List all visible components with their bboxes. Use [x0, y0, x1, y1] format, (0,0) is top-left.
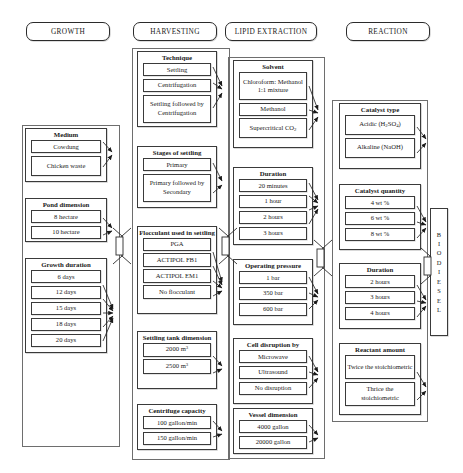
- diagram-canvas: GROWTH HARVESTING LIPID EXTRACTION REACT…: [0, 0, 463, 473]
- group-catalyst-quantity: Catalyst quantity 4 wt % 6 wt % 8 wt %: [339, 184, 421, 250]
- group-technique-options: Settling Centrifugation Settling followe…: [138, 63, 216, 126]
- group-growth-duration-title: Growth duration: [26, 259, 106, 270]
- option-12-days[interactable]: 12 days: [31, 286, 101, 299]
- biodiesel-letter-e1: E: [437, 277, 441, 286]
- option-10-hectare[interactable]: 10 hectare: [31, 226, 101, 239]
- group-medium-options: Cowdung Chicken waste: [26, 140, 106, 179]
- option-150-gallon-min[interactable]: 150 gallon/min: [143, 432, 211, 445]
- group-pond-dimension-title: Pond dimension: [26, 199, 106, 210]
- option-primary-followed-by-secondary-label: Primary followed by Secondary: [145, 179, 209, 196]
- biodiesel-output-label: B I O D I E S E L: [430, 208, 448, 336]
- group-operating-pressure-title: Operating pressure: [234, 260, 312, 271]
- option-15-days[interactable]: 15 days: [31, 302, 101, 315]
- group-catalyst-quantity-options: 4 wt % 6 wt % 8 wt %: [340, 196, 420, 244]
- option-twice-stoichiometric[interactable]: Twice the stoichiometric: [345, 355, 415, 379]
- group-stages-of-settling-title: Stages of settling: [138, 147, 216, 158]
- option-2000-m3[interactable]: 2000 m3: [143, 343, 211, 357]
- group-centrifuge-capacity-options: 100 gallon/min 150 gallon/min: [138, 416, 216, 448]
- option-8-hectare[interactable]: 8 hectare: [31, 210, 101, 223]
- option-6-wt-percent[interactable]: 6 wt %: [345, 212, 415, 225]
- group-growth-duration: Growth duration 6 days 12 days 15 days 1…: [25, 258, 107, 353]
- option-settling-followed-by-centrifugation-label: Settling followed by Centrifugation: [145, 100, 209, 117]
- option-actipol-em1[interactable]: ACTIPOL EM1: [143, 269, 211, 282]
- group-cell-disruption-options: Microwave Ultrasound No disruption: [234, 350, 312, 398]
- option-no-flocculant[interactable]: No flocculant: [143, 285, 211, 298]
- option-actipol-fb1[interactable]: ACTIPOL FB1: [143, 253, 211, 266]
- option-twice-stoichiometric-label: Twice the stoichiometric: [347, 363, 412, 371]
- option-2-hours-extraction[interactable]: 2 hours: [239, 211, 307, 224]
- group-solvent-options: Chloroform: Methanol 1:1 mixture Methano…: [234, 72, 312, 141]
- option-600-bar[interactable]: 600 bar: [239, 303, 307, 316]
- group-operating-pressure-options: 1 bar 350 bar 600 bar: [234, 271, 312, 319]
- option-8-wt-percent[interactable]: 8 wt %: [345, 228, 415, 241]
- group-reactant-amount-title: Reactant amount: [340, 344, 420, 355]
- option-alkaline-naoh-label: Alkaline (NaOH): [357, 143, 403, 151]
- option-methanol[interactable]: Methanol: [239, 103, 307, 116]
- option-thrice-stoichiometric[interactable]: Thrice the stoichiometric: [345, 382, 415, 406]
- option-1-bar[interactable]: 1 bar: [239, 271, 307, 284]
- group-vessel-dimension-title: Vessel dimension: [234, 409, 312, 420]
- option-20-days[interactable]: 20 days: [31, 334, 101, 347]
- option-18-days[interactable]: 18 days: [31, 318, 101, 331]
- group-centrifuge-capacity: Centrifuge capacity 100 gallon/min 150 g…: [137, 404, 217, 450]
- option-chloroform-methanol-label: Chloroform: Methanol 1:1 mixture: [241, 78, 305, 95]
- biodiesel-letter-o: O: [437, 248, 442, 257]
- option-chicken-waste[interactable]: Chicken waste: [31, 156, 101, 176]
- option-2-hours-reaction[interactable]: 2 hours: [345, 275, 415, 288]
- option-no-disruption[interactable]: No disruption: [239, 382, 307, 395]
- option-20000-gallon[interactable]: 20000 gallon: [239, 436, 307, 449]
- group-extraction-duration-options: 20 minutes 1 hour 2 hours 3 hours: [234, 179, 312, 243]
- option-pga[interactable]: PGA: [143, 238, 211, 251]
- option-primary-followed-by-secondary[interactable]: Primary followed by Secondary: [143, 174, 211, 202]
- group-technique: Technique Settling Centrifugation Settli…: [137, 51, 217, 127]
- option-100-gallon-min[interactable]: 100 gallon/min: [143, 416, 211, 429]
- stage-header-reaction: REACTION: [346, 22, 430, 41]
- biodiesel-letter-i1: I: [438, 239, 440, 248]
- group-operating-pressure: Operating pressure 1 bar 350 bar 600 bar: [233, 259, 313, 325]
- option-2500-m3[interactable]: 2500 m3: [143, 359, 211, 373]
- option-6-days[interactable]: 6 days: [31, 270, 101, 283]
- option-acidic-h2so4-label: Acidic (H2SO4): [359, 120, 401, 129]
- group-settling-tank-dimension-title: Settling tank dimension: [138, 332, 216, 343]
- option-chloroform-methanol[interactable]: Chloroform: Methanol 1:1 mixture: [239, 72, 307, 100]
- group-technique-title: Technique: [138, 52, 216, 63]
- group-centrifuge-capacity-title: Centrifuge capacity: [138, 405, 216, 416]
- option-ultrasound[interactable]: Ultrasound: [239, 366, 307, 379]
- stage-header-harvesting: HARVESTING: [133, 22, 217, 41]
- group-catalyst-type: Catalyst type Acidic (H2SO4) Alkaline (N…: [339, 103, 421, 169]
- stage-header-lipid-extraction-label: LIPID EXTRACTION: [235, 27, 308, 36]
- option-4000-gallon[interactable]: 4000 gallon: [239, 420, 307, 433]
- option-350-bar[interactable]: 350 bar: [239, 287, 307, 300]
- option-settling[interactable]: Settling: [143, 63, 211, 76]
- biodiesel-letter-d: D: [437, 258, 442, 267]
- option-settling-followed-by-centrifugation[interactable]: Settling followed by Centrifugation: [143, 95, 211, 123]
- group-reaction-duration: Duration 2 hours 3 hours 4 hours: [339, 263, 421, 329]
- option-4-wt-percent[interactable]: 4 wt %: [345, 196, 415, 209]
- option-microwave[interactable]: Microwave: [239, 350, 307, 363]
- option-20-minutes[interactable]: 20 minutes: [239, 179, 307, 192]
- option-primary[interactable]: Primary: [143, 158, 211, 171]
- biodiesel-letter-b: B: [437, 230, 441, 239]
- option-3-hours-reaction[interactable]: 3 hours: [345, 291, 415, 304]
- option-chicken-waste-label: Chicken waste: [47, 162, 86, 170]
- option-3-hours-extraction[interactable]: 3 hours: [239, 227, 307, 240]
- stage-header-reaction-label: REACTION: [368, 27, 408, 36]
- group-stages-of-settling: Stages of settling Primary Primary follo…: [137, 146, 217, 208]
- option-thrice-stoichiometric-label: Thrice the stoichiometric: [347, 385, 413, 402]
- option-cowdung[interactable]: Cowdung: [31, 140, 101, 153]
- stage-header-growth: GROWTH: [26, 22, 110, 41]
- option-1-hour[interactable]: 1 hour: [239, 195, 307, 208]
- group-vessel-dimension: Vessel dimension 4000 gallon 20000 gallo…: [233, 408, 313, 454]
- group-cell-disruption: Cell disruption by Microwave Ultrasound …: [233, 338, 313, 404]
- option-acidic-h2so4[interactable]: Acidic (H2SO4): [345, 115, 415, 135]
- option-alkaline-naoh[interactable]: Alkaline (NaOH): [345, 138, 415, 158]
- biodiesel-letter-i2: I: [438, 267, 440, 276]
- option-4-hours-reaction[interactable]: 4 hours: [345, 307, 415, 320]
- group-solvent-title: Solvent: [234, 61, 312, 72]
- group-catalyst-quantity-title: Catalyst quantity: [340, 185, 420, 196]
- group-vessel-dimension-options: 4000 gallon 20000 gallon: [234, 420, 312, 452]
- option-supercritical-co2[interactable]: Supercritical CO2: [239, 118, 307, 138]
- group-stages-of-settling-options: Primary Primary followed by Secondary: [138, 158, 216, 205]
- option-centrifugation[interactable]: Centrifugation: [143, 79, 211, 92]
- stage-header-lipid-extraction: LIPID EXTRACTION: [225, 22, 317, 41]
